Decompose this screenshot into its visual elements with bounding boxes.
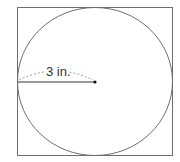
center-point (93, 80, 96, 83)
radius-label: 3 in. (46, 64, 71, 79)
diagram-canvas: 3 in. (0, 0, 180, 162)
